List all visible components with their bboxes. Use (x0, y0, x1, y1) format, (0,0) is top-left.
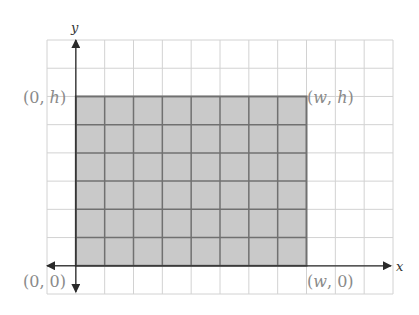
label-top-right-var: w (313, 88, 327, 107)
y-axis-label: y (70, 20, 79, 35)
x-axis-label: x (396, 259, 404, 274)
label-bottom-left-prefix: (0, (23, 272, 50, 291)
label-bottom-right-var2: 0 (337, 272, 347, 291)
label-bottom-right: (w, 0) (307, 272, 354, 291)
label-top-right-suffix: ) (347, 88, 353, 107)
label-top-left-suffix: ) (60, 88, 66, 107)
label-top-right: (w, h) (307, 88, 354, 107)
label-top-right-var2: h (337, 88, 347, 107)
rectangle-region (76, 96, 307, 265)
coordinate-diagram: x y (0, h) (w, h) (0, 0) (w, 0) (0, 0, 419, 315)
label-bottom-left-var: 0 (50, 272, 60, 291)
label-top-right-mid: , (327, 88, 337, 107)
label-bottom-right-mid: , (327, 272, 337, 291)
label-bottom-right-var: w (313, 272, 327, 291)
label-bottom-left-suffix: ) (60, 272, 66, 291)
label-top-left-var: h (50, 88, 60, 107)
label-bottom-left: (0, 0) (23, 272, 66, 291)
label-bottom-right-suffix: ) (347, 272, 353, 291)
label-top-left-prefix: (0, (23, 88, 50, 107)
label-top-left: (0, h) (23, 88, 66, 107)
